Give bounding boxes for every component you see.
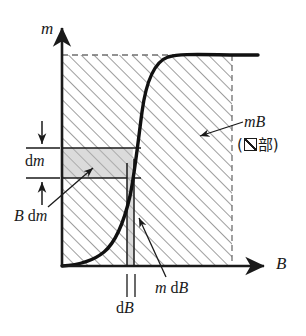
mb-legend-note: (部) bbox=[237, 138, 279, 153]
legend-kanji: 部 bbox=[258, 136, 273, 154]
x-axis-label: B bbox=[276, 255, 286, 272]
legend-paren-open: ( bbox=[237, 136, 243, 154]
legend-paren-close: ) bbox=[273, 136, 279, 154]
db-label: dB bbox=[116, 300, 134, 316]
b-dm-label: B dm bbox=[14, 208, 47, 224]
db-dimension-callout bbox=[127, 274, 135, 297]
y-axis-label: m bbox=[41, 20, 53, 37]
dm-label: dm bbox=[25, 153, 45, 169]
magnetisation-diagram bbox=[0, 0, 306, 336]
figure-root: m B dm B dm dB m dB mB (部) bbox=[0, 0, 306, 336]
hatch-swatch-icon bbox=[244, 138, 257, 151]
m-db-label: m dB bbox=[155, 280, 188, 296]
mb-label: mB bbox=[244, 114, 265, 130]
